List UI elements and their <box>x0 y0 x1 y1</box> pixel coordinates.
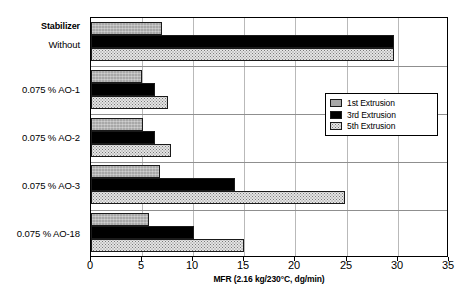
legend-swatch-icon-3rd-extrusion <box>330 111 342 119</box>
legend-swatch-icon-5th-extrusion <box>330 122 342 130</box>
bar-without-1st-extrusion <box>91 22 162 35</box>
category-separator-1 <box>91 66 447 67</box>
bar-ao-1-3rd-extrusion <box>91 83 155 96</box>
legend-label-5th-extrusion: 5th Extrusion <box>347 121 395 131</box>
plot-area: 1st Extrusion 3rd Extrusion 5th Extrusio… <box>90 17 448 257</box>
bar-ao-18-3rd-extrusion <box>91 226 194 239</box>
legend-item-1st-extrusion: 1st Extrusion <box>330 98 433 109</box>
category-label-ao-18: 0.075 % AO-18 <box>0 228 80 239</box>
bar-without-3rd-extrusion <box>91 35 394 48</box>
bar-ao-1-5th-extrusion <box>91 96 168 109</box>
x-axis-title: MFR (2.16 kg/230°C, dg/min) <box>90 274 448 284</box>
category-separator-4 <box>91 210 447 211</box>
bar-ao-18-5th-extrusion <box>91 239 244 252</box>
bar-ao-2-3rd-extrusion <box>91 131 155 144</box>
category-axis-header: Stabilizer <box>0 21 80 31</box>
category-axis-labels: Stabilizer Without 0.075 % AO-1 0.075 % … <box>0 17 85 257</box>
chart-figure: Stabilizer Without 0.075 % AO-1 0.075 % … <box>0 0 466 304</box>
bar-ao-1-1st-extrusion <box>91 70 142 83</box>
category-label-ao-3: 0.075 % AO-3 <box>0 180 80 191</box>
bar-ao-2-1st-extrusion <box>91 118 143 131</box>
bar-ao-3-3rd-extrusion <box>91 178 235 191</box>
category-label-without: Without <box>0 39 80 50</box>
legend-label-1st-extrusion: 1st Extrusion <box>347 98 395 108</box>
chart-legend: 1st Extrusion 3rd Extrusion 5th Extrusio… <box>325 93 438 136</box>
bar-ao-3-1st-extrusion <box>91 165 160 178</box>
bar-without-5th-extrusion <box>91 48 394 61</box>
category-label-ao-2: 0.075 % AO-2 <box>0 132 80 143</box>
bar-ao-18-1st-extrusion <box>91 213 149 226</box>
legend-item-5th-extrusion: 5th Extrusion <box>330 121 433 132</box>
legend-item-3rd-extrusion: 3rd Extrusion <box>330 109 433 120</box>
bar-ao-3-5th-extrusion <box>91 191 345 204</box>
gridline-30 <box>398 18 399 256</box>
category-label-ao-1: 0.075 % AO-1 <box>0 84 80 95</box>
legend-swatch-icon-1st-extrusion <box>330 99 342 107</box>
bar-ao-2-5th-extrusion <box>91 144 171 157</box>
category-separator-3 <box>91 162 447 163</box>
legend-label-3rd-extrusion: 3rd Extrusion <box>347 110 396 120</box>
